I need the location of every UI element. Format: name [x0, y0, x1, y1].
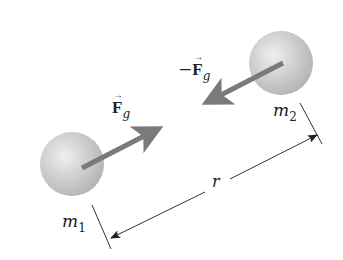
force-label-2: −→Fg: [178, 59, 210, 80]
diagram: →Fg −→Fg m1 m2 r: [0, 0, 343, 260]
distance-line-left: [111, 192, 205, 238]
distance-label: r: [212, 172, 220, 191]
extension-line-1: [92, 205, 111, 249]
mass-label-2: m2: [273, 100, 297, 120]
distance-line-right: [230, 135, 317, 179]
diagram-graphics: [0, 0, 343, 260]
force-label-1: →Fg: [112, 97, 130, 118]
mass-label-1: m1: [62, 211, 86, 231]
